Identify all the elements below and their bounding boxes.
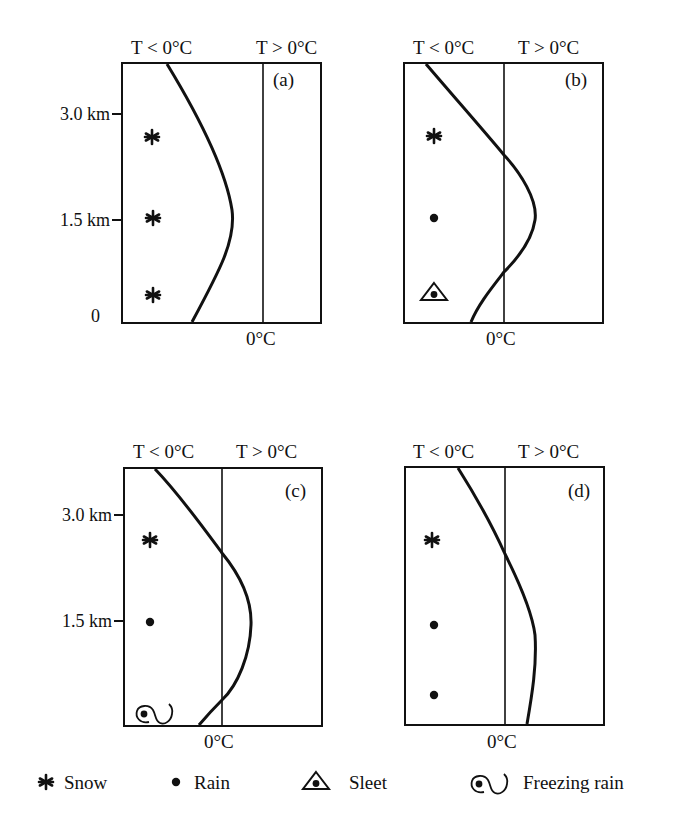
- y-tick-label: 0: [91, 306, 100, 326]
- panel-d: T < 0°C T > 0°C (d) 0°C: [405, 441, 604, 752]
- snow-icon: [39, 775, 53, 789]
- temperature-profile: [458, 468, 535, 724]
- precipitation-type-diagram: T < 0°C T > 0°C (a) 0°C 3.0 km 1.5 km 0 …: [0, 0, 680, 832]
- rain-icon: [172, 778, 180, 786]
- temperature-profile: [155, 469, 251, 725]
- panel-label: (a): [273, 69, 294, 91]
- panel-frame: [124, 468, 322, 726]
- sleet-icon: [303, 772, 329, 789]
- header-warm: T > 0°C: [518, 37, 579, 58]
- y-tick-label: 1.5 km: [62, 611, 112, 631]
- legend-item-snow: Snow: [39, 772, 108, 793]
- freezing-rain-icon: [137, 704, 173, 724]
- y-tick-label: 3.0 km: [60, 104, 110, 124]
- snow-icon: [427, 129, 441, 143]
- snow-icon: [146, 288, 160, 302]
- header-cold: T < 0°C: [413, 441, 474, 462]
- y-tick-label: 3.0 km: [62, 505, 112, 525]
- temperature-profile: [426, 64, 535, 322]
- snow-icon: [143, 533, 157, 547]
- header-warm: T > 0°C: [518, 441, 579, 462]
- legend-label: Rain: [194, 772, 230, 793]
- legend-label: Snow: [64, 772, 108, 793]
- legend-label: Freezing rain: [523, 772, 624, 793]
- legend-item-rain: Rain: [172, 772, 231, 793]
- panel-b: T < 0°C T > 0°C (b) 0°C: [404, 37, 603, 349]
- temperature-profile: [167, 64, 233, 322]
- sleet-icon: [421, 283, 447, 300]
- panel-label: (b): [565, 69, 587, 91]
- header-cold: T < 0°C: [131, 37, 192, 58]
- snow-icon: [146, 211, 160, 225]
- freezing-rain-icon: [472, 774, 508, 794]
- header-cold: T < 0°C: [133, 441, 194, 462]
- rain-icon: [146, 618, 154, 626]
- zero-degree-label: 0°C: [204, 731, 234, 752]
- header-cold: T < 0°C: [413, 37, 474, 58]
- panel-a: T < 0°C T > 0°C (a) 0°C 3.0 km 1.5 km 0: [60, 37, 321, 349]
- legend-label: Sleet: [349, 772, 388, 793]
- rain-icon: [430, 691, 438, 699]
- zero-degree-label: 0°C: [246, 328, 276, 349]
- rain-icon: [430, 621, 438, 629]
- snow-icon: [145, 130, 159, 144]
- rain-icon: [430, 214, 438, 222]
- legend-item-freezing-rain: Freezing rain: [472, 772, 625, 794]
- panel-c: T < 0°C T > 0°C (c) 0°C 3.0 km 1.5 km: [62, 441, 322, 752]
- panel-label: (d): [568, 480, 590, 502]
- snow-icon: [425, 533, 439, 547]
- legend: Snow Rain Sleet Freezing rain: [39, 772, 624, 794]
- header-warm: T > 0°C: [256, 37, 317, 58]
- panel-label: (c): [285, 480, 306, 502]
- y-tick-label: 1.5 km: [60, 210, 110, 230]
- zero-degree-label: 0°C: [487, 731, 517, 752]
- legend-item-sleet: Sleet: [303, 772, 388, 793]
- zero-degree-label: 0°C: [486, 328, 516, 349]
- header-warm: T > 0°C: [236, 441, 297, 462]
- panel-frame: [122, 63, 321, 323]
